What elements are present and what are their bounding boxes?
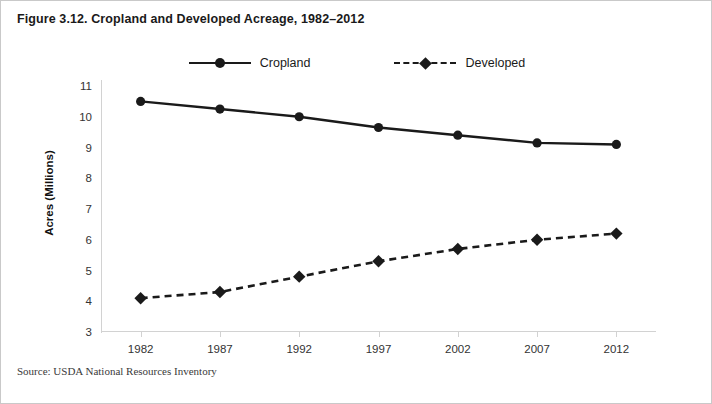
y-tick-label: 11 xyxy=(80,80,92,92)
data-point-developed-1997 xyxy=(372,255,384,267)
y-tick-label: 7 xyxy=(86,203,92,215)
data-point-cropland-1982 xyxy=(136,97,145,106)
chart-series-svg xyxy=(101,86,656,332)
legend-label-developed: Developed xyxy=(465,56,525,70)
figure-container: Figure 3.12. Cropland and Developed Acre… xyxy=(0,0,712,404)
x-tick-mark xyxy=(537,332,538,337)
chart-legend: Cropland Developed xyxy=(1,56,712,70)
x-tick-label: 1992 xyxy=(286,343,312,355)
x-tick-label: 2012 xyxy=(604,343,630,355)
figure-title: Figure 3.12. Cropland and Developed Acre… xyxy=(17,12,364,26)
x-tick-label: 1987 xyxy=(207,343,233,355)
y-tick-label: 6 xyxy=(86,234,92,246)
data-point-developed-1987 xyxy=(214,286,226,298)
legend-label-cropland: Cropland xyxy=(260,56,311,70)
data-point-cropland-1997 xyxy=(374,123,383,132)
data-point-cropland-2012 xyxy=(612,140,621,149)
y-tick-label: 9 xyxy=(86,142,92,154)
data-point-developed-1992 xyxy=(293,270,305,282)
x-tick-mark xyxy=(379,332,380,337)
y-tick-label: 4 xyxy=(86,295,92,307)
data-point-cropland-2007 xyxy=(532,138,541,147)
y-tick-label: 10 xyxy=(79,111,92,123)
x-tick-mark xyxy=(299,332,300,337)
y-tick-label: 3 xyxy=(86,326,92,338)
x-tick-mark xyxy=(458,332,459,337)
data-point-cropland-2002 xyxy=(453,131,462,140)
x-tick-mark xyxy=(141,332,142,337)
x-tick-label: 2002 xyxy=(445,343,471,355)
y-tick-label: 5 xyxy=(86,265,92,277)
data-point-developed-2012 xyxy=(610,227,622,239)
y-axis-title: Acres (Millions) xyxy=(43,113,55,273)
data-point-developed-2002 xyxy=(452,243,464,255)
plot-area: 11109876543 1982198719921997200220072012 xyxy=(101,86,656,332)
data-point-cropland-1987 xyxy=(215,104,224,113)
data-point-cropland-1992 xyxy=(295,112,304,121)
data-point-developed-2007 xyxy=(531,234,543,246)
legend-swatch-cropland-solid-line-circle-icon xyxy=(189,56,251,70)
data-point-developed-1982 xyxy=(134,292,146,304)
legend-item-cropland: Cropland xyxy=(189,56,311,70)
x-tick-mark xyxy=(220,332,221,337)
x-tick-label: 2007 xyxy=(524,343,550,355)
y-tick-label: 8 xyxy=(86,172,92,184)
x-tick-label: 1982 xyxy=(128,343,154,355)
source-note: Source: USDA National Resources Inventor… xyxy=(17,365,217,377)
x-tick-label: 1997 xyxy=(366,343,392,355)
legend-swatch-developed-dashed-line-diamond-icon xyxy=(394,56,456,70)
series-line-cropland xyxy=(141,101,617,144)
x-tick-mark xyxy=(616,332,617,337)
legend-item-developed: Developed xyxy=(394,56,525,70)
